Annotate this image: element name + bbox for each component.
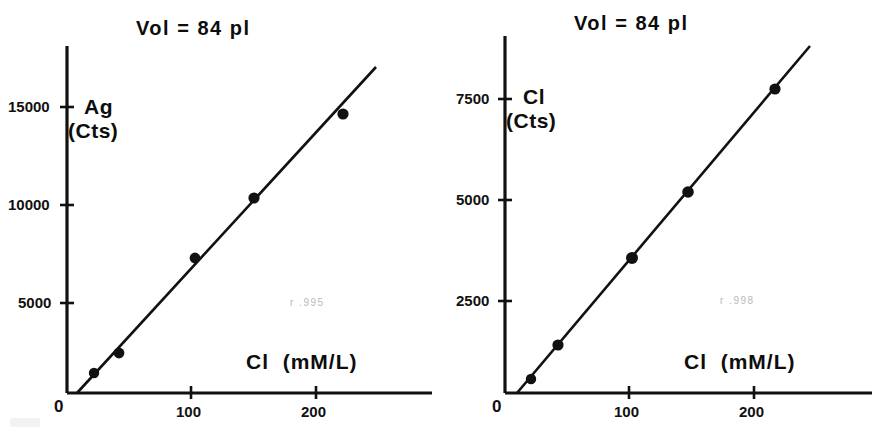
y-tick-label-10000: 10000 [8, 197, 50, 212]
panel-ag-calibration: Vol = 84 pl Ag (Cts) 15000 10000 5000 0 … [0, 0, 438, 435]
scan-artifact [10, 418, 40, 427]
data-point [526, 374, 536, 384]
panel-title: Vol = 84 pl [574, 13, 689, 33]
y-axis-name-line2: (Cts) [506, 110, 556, 131]
panel-ag-plot-area [0, 0, 438, 435]
data-point [114, 348, 125, 359]
panel-cl-calibration: Vol = 84 pl Cl (Cts) 7500 5000 2500 0 10… [438, 0, 876, 435]
regression-line [77, 67, 376, 393]
y-axis-name-line1: Ag [84, 96, 113, 117]
panel-cl-plot-area [438, 0, 876, 435]
correlation-annotation: r .998 [720, 296, 755, 306]
y-tick-label-7500: 7500 [456, 91, 489, 106]
x-axis-title: Cl (mM/L) [246, 351, 357, 372]
x-tick-label-100: 100 [176, 404, 201, 419]
data-point [552, 339, 563, 350]
axis-lines [505, 36, 872, 393]
data-point [89, 368, 99, 378]
panel-title: Vol = 84 pl [136, 18, 251, 38]
x-axis-title: Cl (mM/L) [684, 351, 795, 372]
x-tick-label-200: 200 [301, 404, 326, 419]
correlation-annotation: r .995 [290, 298, 325, 308]
y-tick-label-5000: 5000 [456, 192, 489, 207]
y-tick-label-5000: 5000 [18, 295, 51, 310]
axis-lines [67, 46, 432, 393]
y-axis-name-line1: Cl [523, 86, 545, 107]
y-axis-name-line2: (Cts) [68, 120, 118, 141]
origin-label: 0 [54, 398, 63, 415]
y-tick-label-2500: 2500 [456, 293, 489, 308]
data-point [626, 252, 638, 264]
data-point [769, 83, 780, 94]
origin-label: 0 [492, 398, 501, 415]
x-tick-label-100: 100 [614, 404, 639, 419]
data-point [337, 108, 348, 119]
calibration-figure: Vol = 84 pl Ag (Cts) 15000 10000 5000 0 … [0, 0, 876, 435]
x-tick-label-200: 200 [739, 404, 764, 419]
y-tick-label-15000: 15000 [8, 99, 50, 114]
data-point [682, 186, 694, 198]
data-point [248, 192, 259, 203]
data-point [190, 253, 201, 264]
